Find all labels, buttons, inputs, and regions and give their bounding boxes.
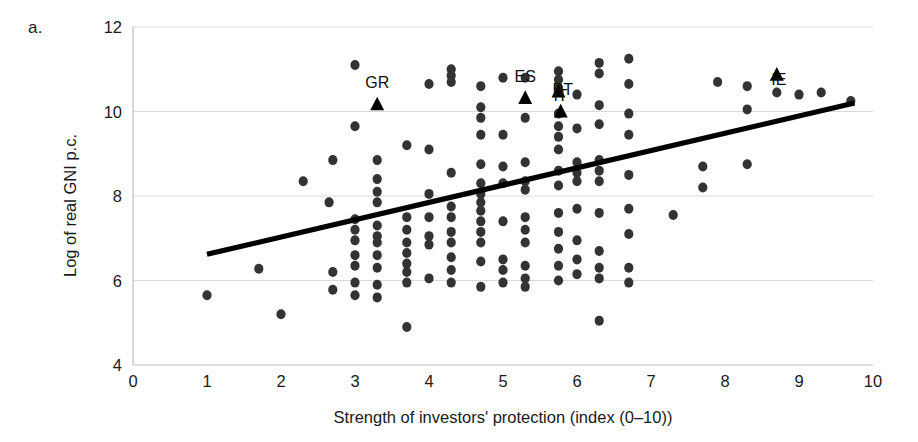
data-point (817, 87, 826, 97)
data-point (595, 316, 604, 326)
data-point (476, 256, 485, 266)
data-point (447, 252, 456, 262)
data-point (554, 121, 563, 131)
data-point (743, 104, 752, 114)
data-point (447, 168, 456, 178)
data-point (476, 113, 485, 123)
data-point (373, 174, 382, 184)
data-point (476, 237, 485, 247)
data-point (202, 290, 211, 300)
highlight-marker-es (518, 90, 532, 104)
data-point (373, 187, 382, 197)
data-point (424, 189, 433, 199)
data-point (476, 130, 485, 140)
data-point (447, 237, 456, 247)
data-point (402, 267, 411, 277)
data-point (476, 178, 485, 188)
data-point (572, 254, 581, 264)
data-point (328, 285, 337, 295)
data-point (476, 102, 485, 112)
data-point (521, 113, 530, 123)
data-point (373, 250, 382, 260)
data-point (572, 90, 581, 100)
data-point (554, 227, 563, 237)
data-point (476, 159, 485, 169)
data-point (350, 278, 359, 288)
data-point (713, 77, 722, 87)
data-point (595, 176, 604, 186)
data-point (402, 140, 411, 150)
data-point (624, 263, 633, 273)
data-point (402, 212, 411, 222)
country-label-gr: GR (365, 75, 389, 91)
data-point (373, 237, 382, 247)
data-point (498, 161, 507, 171)
data-point (572, 123, 581, 133)
data-point (254, 264, 263, 274)
data-point (698, 183, 707, 193)
data-point (624, 229, 633, 239)
data-point (698, 161, 707, 171)
data-point (498, 265, 507, 275)
data-point (447, 212, 456, 222)
data-point (554, 145, 563, 155)
data-point (373, 221, 382, 231)
data-point (772, 87, 781, 97)
data-point (447, 77, 456, 87)
data-point (595, 208, 604, 218)
data-point (402, 322, 411, 332)
data-point (624, 79, 633, 89)
data-point (498, 254, 507, 264)
data-point (402, 237, 411, 247)
data-point (476, 227, 485, 237)
data-point (624, 130, 633, 140)
data-point (299, 176, 308, 186)
data-point (624, 109, 633, 119)
data-point (447, 202, 456, 212)
data-point (373, 155, 382, 165)
data-point (595, 58, 604, 68)
data-point (669, 210, 678, 220)
data-point (554, 208, 563, 218)
data-point (595, 166, 604, 176)
data-point (521, 185, 530, 195)
data-point (350, 235, 359, 245)
data-point (595, 273, 604, 283)
data-point (521, 261, 530, 271)
data-point (521, 282, 530, 292)
data-point (373, 197, 382, 207)
data-point (424, 79, 433, 89)
data-point (572, 269, 581, 279)
data-point (743, 159, 752, 169)
data-point (521, 212, 530, 222)
data-point (328, 267, 337, 277)
data-points-layer (202, 54, 855, 332)
data-point (447, 227, 456, 237)
data-point (595, 263, 604, 273)
data-point (373, 263, 382, 273)
data-point (447, 278, 456, 288)
data-point (328, 155, 337, 165)
data-point (276, 309, 285, 319)
data-point (476, 282, 485, 292)
data-point (624, 54, 633, 64)
highlight-marker-gr (370, 97, 384, 111)
data-point (572, 204, 581, 214)
data-point (325, 197, 334, 207)
data-point (350, 250, 359, 260)
data-point (373, 292, 382, 302)
country-label-ie: IE (771, 72, 786, 88)
data-point (498, 278, 507, 288)
data-point (350, 225, 359, 235)
data-point (476, 206, 485, 216)
data-point (521, 237, 530, 247)
data-point (424, 240, 433, 250)
data-point (350, 261, 359, 271)
data-point (554, 261, 563, 271)
data-point (521, 157, 530, 167)
data-point (350, 290, 359, 300)
country-label-pt: PT (552, 82, 572, 98)
scatter-plot-canvas (0, 0, 918, 442)
data-point (624, 170, 633, 180)
data-point (794, 90, 803, 100)
